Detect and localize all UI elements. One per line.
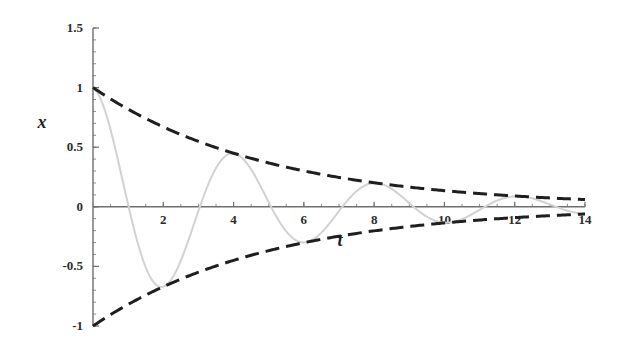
y-axis-tick-label: 1 [77, 80, 84, 95]
y-axis-tick-label: 0 [77, 199, 84, 214]
y-axis-tick-label: -0.5 [62, 258, 83, 273]
x-axis-tick-label: 8 [371, 212, 378, 227]
y-axis-major-ticks [93, 28, 99, 326]
x-axis-tick-label: 2 [160, 212, 167, 227]
chart-figure: 2468101214 1.510.50-0.5-1 t x [0, 0, 632, 356]
x-axis-tick-label: 4 [230, 212, 237, 227]
x-axis-major-ticks [163, 202, 585, 207]
x-axis-tick-label: 12 [508, 212, 521, 227]
y-axis-title: x [37, 112, 47, 132]
series-line-solution [93, 88, 585, 287]
plot-canvas: 2468101214 1.510.50-0.5-1 t x [0, 0, 632, 356]
y-axis-tick-label: 0.5 [67, 139, 84, 154]
x-axis-tick-labels: 2468101214 [160, 212, 592, 227]
y-axis-tick-label: -1 [72, 318, 83, 333]
series-line-envelope [93, 88, 585, 200]
x-axis-title: t [337, 230, 343, 250]
y-axis-tick-label: 1.5 [67, 20, 84, 35]
x-axis-tick-label: 6 [301, 212, 308, 227]
y-axis-tick-labels: 1.510.50-0.5-1 [62, 20, 83, 333]
